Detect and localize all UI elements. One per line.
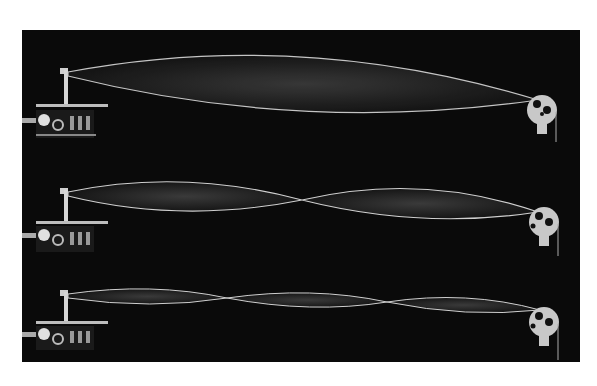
standing-waves-photo <box>22 30 580 362</box>
pulley-2 <box>529 207 559 256</box>
wave-loop-2a <box>68 182 302 211</box>
wave-loop-3a <box>68 289 227 304</box>
wave-loop-3c <box>387 298 540 313</box>
wave-loop-2b <box>302 188 538 218</box>
standing-waves-illustration <box>22 30 580 362</box>
pulley-1 <box>527 95 557 142</box>
string-assembly-3 <box>22 289 559 360</box>
string-assembly-2 <box>22 182 559 256</box>
wave-loop-1 <box>68 55 538 112</box>
pulley-3 <box>529 307 559 360</box>
string-assembly-1 <box>22 55 557 142</box>
wave-loop-3b <box>227 293 387 307</box>
